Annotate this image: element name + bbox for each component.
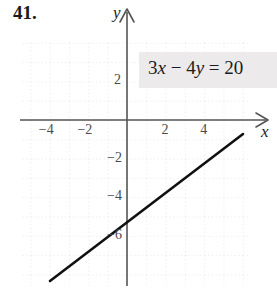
y-axis-label: y	[113, 3, 121, 23]
x-tick-label: −2	[77, 122, 92, 138]
x-tick-label: 4	[200, 122, 207, 138]
x-tick-label: 2	[162, 122, 169, 138]
y-tick-label: −4	[107, 188, 122, 204]
equation-coef-x: 3	[148, 57, 158, 78]
equation-constant: 20	[224, 57, 243, 78]
x-tick-label: −4	[39, 122, 54, 138]
equation-equals: =	[209, 57, 220, 78]
equation-var-x: x	[158, 57, 166, 78]
y-tick-label: 2	[114, 72, 121, 88]
y-tick-label: −6	[107, 227, 122, 243]
equation-operator: −	[171, 57, 182, 78]
x-axis-label: x	[261, 122, 269, 142]
equation-var-y: y	[196, 57, 204, 78]
y-tick-label: −2	[107, 150, 122, 166]
figure-container: 41. 3x − 4y = 20 y x −4−2242−2−4−6	[0, 0, 277, 292]
equation-label: 3x − 4y = 20	[148, 57, 243, 79]
coordinate-plane	[0, 0, 277, 292]
equation-coef-y: 4	[186, 57, 196, 78]
